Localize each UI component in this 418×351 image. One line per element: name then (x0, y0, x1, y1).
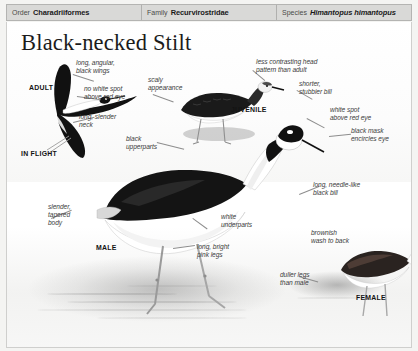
field-guide-page: Order Charadriiformes Family Recurvirost… (0, 0, 418, 351)
stage-label-female: FEMALE (356, 294, 386, 301)
taxonomy-value-species: Himantopus himantopus (310, 8, 396, 17)
callout-slender-tapered-body: slender, tapered body (48, 203, 71, 228)
stage-label-adult: ADULT (29, 84, 53, 91)
taxonomy-value-order: Charadriiformes (33, 8, 89, 17)
callout-black-mask-encircles-eye: black mask encircles eye (351, 127, 389, 143)
taxonomy-label-family: Family (147, 9, 168, 16)
taxonomy-label-order: Order (12, 9, 30, 16)
stage-label-male: MALE (96, 244, 117, 251)
callout-white-underparts: white underparts (221, 213, 252, 229)
taxonomy-label-species: Species (282, 9, 307, 16)
taxonomy-cell-order: Order Charadriiformes (7, 5, 142, 20)
callout-scaly-appearance: scaly appearance (148, 76, 182, 92)
callout-less-contrasting-head-pattern: less contrasting head pattern than adult (256, 58, 317, 74)
callout-black-upperparts: black upperparts (126, 135, 157, 151)
callout-brownish-wash-to-back: brownish wash to back (311, 229, 349, 245)
callout-white-spot-above-red-eye: white spot above red eye (330, 106, 371, 122)
callout-long-bright-pink-legs: long, bright pink legs (197, 243, 229, 259)
taxonomy-bar: Order Charadriiformes Family Recurvirost… (6, 4, 412, 21)
stage-label-in-flight: IN FLIGHT (21, 150, 57, 157)
stage-label-juvenile: JUVENILE (231, 106, 267, 113)
callout-shorter-stubbier-bill: shorter, stubbier bill (299, 80, 332, 96)
callout-long-slender-neck: long, slender neck (79, 113, 116, 129)
bird-female (337, 240, 412, 330)
taxonomy-cell-family: Family Recurvirostridae (142, 5, 277, 20)
callout-no-white-spot-above-red-eye: no white spot above red eye (84, 85, 125, 101)
illustration-plate: Black-necked Stilt (6, 22, 412, 348)
callout-long-angular-black-wings: long, angular, black wings (76, 59, 115, 75)
taxonomy-cell-species: Species Himantopus himantopus (277, 5, 411, 20)
callout-duller-legs-than-male: duller legs than male (280, 271, 310, 287)
taxonomy-value-family: Recurvirostridae (171, 8, 229, 17)
page-title: Black-necked Stilt (21, 30, 191, 56)
callout-long-needle-like-black-bill: long, needle-like black bill (313, 181, 360, 197)
